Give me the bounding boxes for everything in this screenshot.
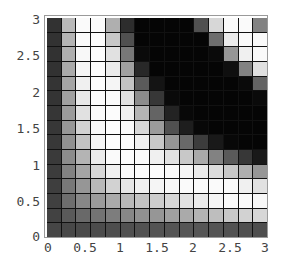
heatmap-cell (165, 194, 179, 208)
heatmap-cell (47, 91, 61, 105)
heatmap-cell (76, 223, 90, 237)
heatmap-cell (91, 194, 105, 208)
heatmap-cell (239, 194, 253, 208)
heatmap-cell (180, 209, 194, 223)
heatmap-cell (106, 18, 120, 32)
y-tick-0: 0 (32, 230, 40, 243)
y-tick-2.5: 2.5 (17, 49, 40, 62)
heatmap-cell (150, 91, 164, 105)
heatmap-cell (194, 77, 208, 91)
heatmap-cell (135, 165, 149, 179)
heatmap-cell (47, 209, 61, 223)
heatmap-cell (76, 77, 90, 91)
heatmap-cell (150, 77, 164, 91)
heatmap-cell (194, 179, 208, 193)
heatmap-cell (91, 135, 105, 149)
heatmap-cell (150, 150, 164, 164)
heatmap-cell (165, 121, 179, 135)
heatmap-cell (106, 91, 120, 105)
heatmap-cell (47, 18, 61, 32)
heatmap-cell (121, 33, 135, 47)
heatmap-cell (62, 223, 76, 237)
heatmap-cell (135, 135, 149, 149)
heatmap-cell (62, 179, 76, 193)
heatmap-cell (62, 47, 76, 61)
heatmap-cell (150, 121, 164, 135)
heatmap-cell (224, 77, 238, 91)
heatmap-cell (135, 179, 149, 193)
heatmap-cell (135, 91, 149, 105)
heatmap-cell (150, 165, 164, 179)
heatmap-cell (106, 150, 120, 164)
heatmap-cell (150, 47, 164, 61)
heatmap-cell (91, 18, 105, 32)
heatmap-cell (47, 135, 61, 149)
heatmap-grid (47, 18, 267, 237)
heatmap-cell (62, 106, 76, 120)
heatmap-cell (135, 47, 149, 61)
heatmap-cell (165, 209, 179, 223)
heatmap-cell (76, 47, 90, 61)
heatmap-cell (121, 77, 135, 91)
heatmap-cell (91, 47, 105, 61)
heatmap-cell (180, 194, 194, 208)
heatmap-cell (121, 106, 135, 120)
heatmap-cell (76, 194, 90, 208)
y-tick-2: 2 (32, 86, 40, 99)
heatmap-cell (76, 91, 90, 105)
heatmap-cell (209, 106, 223, 120)
heatmap-cell (253, 223, 267, 237)
heatmap-cell (253, 33, 267, 47)
heatmap-cell (62, 194, 76, 208)
heatmap-cell (47, 33, 61, 47)
heatmap-cell (62, 33, 76, 47)
heatmap-cell (224, 194, 238, 208)
y-tick-1.5: 1.5 (17, 122, 40, 135)
heatmap-cell (224, 135, 238, 149)
heatmap-cell (106, 33, 120, 47)
heatmap-cell (47, 121, 61, 135)
heatmap-cell (224, 33, 238, 47)
heatmap-cell (76, 179, 90, 193)
heatmap-cell (165, 150, 179, 164)
heatmap-cell (239, 33, 253, 47)
heatmap-cell (194, 33, 208, 47)
heatmap-cell (209, 91, 223, 105)
y-tick-3: 3 (32, 13, 40, 26)
heatmap-cell (106, 223, 120, 237)
x-tick-2: 2 (189, 241, 197, 254)
heatmap-cell (150, 135, 164, 149)
heatmap-cell (253, 91, 267, 105)
heatmap-cell (165, 223, 179, 237)
heatmap-cell (150, 209, 164, 223)
heatmap-cell (165, 33, 179, 47)
heatmap-cell (121, 121, 135, 135)
heatmap-cell (224, 18, 238, 32)
heatmap-cell (194, 223, 208, 237)
heatmap-cell (135, 77, 149, 91)
heatmap-cell (209, 165, 223, 179)
heatmap-cell (150, 106, 164, 120)
heatmap-cell (239, 62, 253, 76)
heatmap-cell (150, 194, 164, 208)
heatmap-cell (135, 209, 149, 223)
heatmap-cell (253, 179, 267, 193)
heatmap-cell (165, 47, 179, 61)
heatmap-cell (239, 47, 253, 61)
heatmap-cell (106, 209, 120, 223)
heatmap-cell (209, 150, 223, 164)
heatmap-cell (224, 165, 238, 179)
heatmap-cell (194, 106, 208, 120)
heatmap-cell (180, 135, 194, 149)
heatmap-cell (180, 91, 194, 105)
heatmap-cell (209, 18, 223, 32)
heatmap-cell (62, 77, 76, 91)
y-tick-0.5: 0.5 (17, 195, 40, 208)
heatmap-cell (239, 150, 253, 164)
heatmap-cell (62, 209, 76, 223)
heatmap-cell (253, 106, 267, 120)
heatmap-cell (239, 135, 253, 149)
heatmap-cell (150, 179, 164, 193)
heatmap-cell (180, 62, 194, 76)
heatmap-cell (106, 179, 120, 193)
